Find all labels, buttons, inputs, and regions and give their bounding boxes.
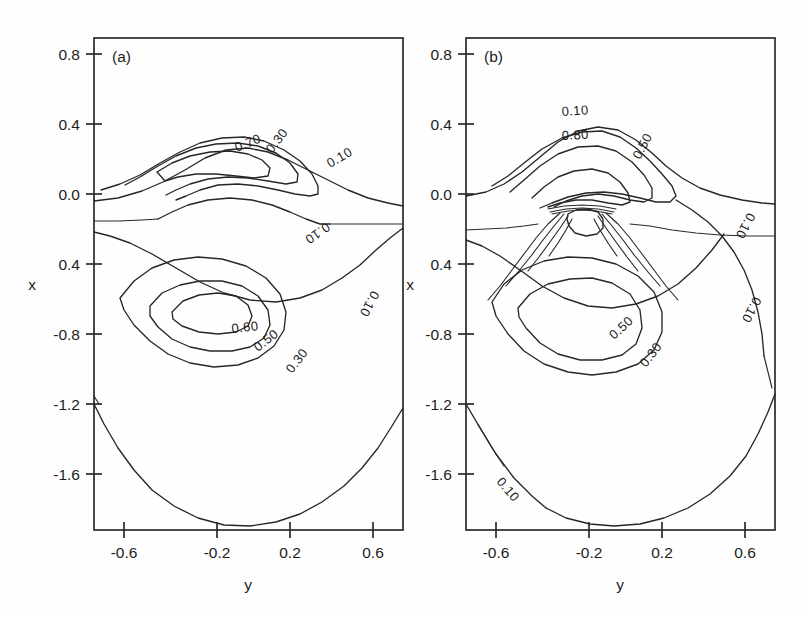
x-tick-label: -0.6 [111,544,138,561]
y-tick-label: 0.4 [430,116,452,133]
panel-b-canvas: 0.8 0.4 0.0 0.4 -0.8 -1.2 -1.6 -0.6 -0.2… [400,0,809,617]
contour-path-0.10-bottom [94,404,403,526]
panel-a-canvas: 0.8 0.4 0.0 0.4 -0.8 -1.2 -1.6 -0.6 -0.2… [0,0,409,617]
contour-figure: 0.8 0.4 0.0 0.4 -0.8 -1.2 -1.6 -0.6 -0.2… [0,0,809,617]
y-axis-title-b: x [406,276,414,293]
contour-path-0.10-mid [158,198,330,224]
contour-fan-right-2 [602,214,660,286]
contour-path-0.10-lower-outer [94,228,403,302]
plot-frame-a [94,38,403,530]
contour-core-band-3 [552,210,612,214]
boundary-line-left [466,224,538,230]
y-tick-label: -1.2 [425,396,452,413]
y-tick-label: 0.4 [58,256,80,273]
contour-edge-stroke-1 [764,356,772,388]
y-tick-label: -1.6 [425,466,452,483]
x-tick-label: -0.2 [576,544,603,561]
contour-fan-right-4 [594,219,617,256]
y-tick-label: -1.6 [53,466,80,483]
contour-label: 0.30 [283,345,311,375]
contour-label: 0.50 [606,313,636,342]
x-axis-title-b: y [616,576,624,593]
contour-label: 0.10 [733,211,759,242]
plot-frame-b [466,38,775,530]
y-tick-label: 0.4 [58,116,80,133]
x-axis-title-a: y [244,576,252,593]
contour-fan-left-4 [549,219,572,256]
x-tick-label: 0.6 [362,544,384,561]
x-tick-label: 0.2 [651,544,673,561]
panel-a: 0.8 0.4 0.0 0.4 -0.8 -1.2 -1.6 -0.6 -0.2… [0,0,409,617]
y-tick-label: -0.8 [53,326,80,343]
contour-path-0.10-bottom [546,394,775,526]
contour-path-0.10-lower-outer [466,234,724,308]
panel-b: 0.8 0.4 0.0 0.4 -0.8 -1.2 -1.6 -0.6 -0.2… [400,0,809,617]
y-tick-label: -1.2 [53,396,80,413]
y-tick-label: 0.8 [58,46,80,63]
contour-label: 0.80 [561,127,589,143]
contour-path-0.10-upper [466,127,775,204]
y-tick-label: 0.4 [430,256,452,273]
contour-path-0.30-upper [101,137,318,200]
contour-path-inner-upper [532,169,630,207]
x-tick-label: -0.2 [204,544,231,561]
contour-core-cell [567,209,603,236]
boundary-line-left [94,219,158,221]
contour-path-0.30-lower [492,257,662,375]
x-tick-label: -0.6 [483,544,510,561]
contour-label: 0.10 [357,289,383,320]
contour-label: 0.60 [231,318,259,336]
contour-label: 0.70 [233,131,264,155]
contour-label: 0.10 [324,144,355,170]
panel-label-b: (b) [484,48,503,65]
x-tick-label: 0.6 [734,544,756,561]
contour-label: 0.50 [629,131,655,162]
contour-label: 0.30 [637,339,665,369]
y-tick-label: -0.8 [425,326,452,343]
y-axis-title-a: x [28,276,36,293]
y-tick-label: 0.0 [58,186,80,203]
panel-label-a: (a) [112,48,131,65]
contour-label: 0.10 [494,474,523,504]
y-tick-label: 0.0 [430,186,452,203]
x-tick-label: 0.2 [279,544,301,561]
contour-labels-a: 0.70 0.30 0.10 0.10 0.60 0.50 0.30 0.10 [231,125,383,375]
contour-label: 0.10 [739,295,765,326]
y-tick-label: 0.8 [430,46,452,63]
contour-label: 0.10 [561,102,589,119]
